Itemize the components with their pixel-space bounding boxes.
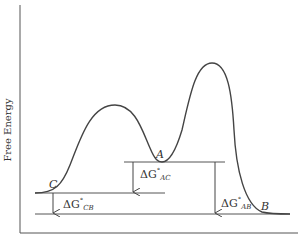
delta-g-ab-label: ΔG°AB — [221, 196, 251, 211]
delta-g-ac-label: ΔG°AC — [140, 167, 171, 182]
free-energy-diagram: Free Energy C A B ΔG°AC ΔG°CB ΔG°AB — [0, 0, 298, 237]
energy-curve — [35, 63, 290, 214]
state-label-b: B — [260, 200, 269, 213]
delta-g-cb-label: ΔG°CB — [63, 197, 94, 212]
y-axis-label: Free Energy — [2, 98, 13, 162]
state-label-c: C — [49, 178, 58, 191]
state-label-a: A — [155, 148, 164, 161]
